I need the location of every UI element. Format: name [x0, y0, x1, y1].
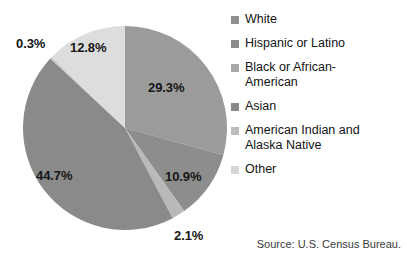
legend-item-label: Hispanic or Latino [245, 36, 345, 51]
legend-item[interactable]: White [231, 12, 407, 27]
pie-plot-area: 29.3%10.9%2.1%44.7%0.3%12.8% [0, 0, 236, 258]
legend-item-label: American Indian and Alaska Native [245, 123, 360, 153]
legend-item-label: White [245, 12, 277, 27]
slice-value-label: 44.7% [36, 168, 72, 183]
legend-swatch-icon [231, 127, 239, 135]
slice-value-label: 0.3% [16, 36, 45, 51]
legend-item[interactable]: Asian [231, 99, 407, 114]
legend-item-label: Black or African- American [245, 60, 336, 90]
legend-swatch-icon [231, 64, 239, 72]
slice-value-label: 12.8% [70, 40, 106, 55]
legend-swatch-icon [231, 103, 239, 111]
legend-item-label: Asian [245, 99, 276, 114]
legend-item[interactable]: Hispanic or Latino [231, 36, 407, 51]
legend-swatch-icon [231, 40, 239, 48]
slice-value-label: 2.1% [174, 228, 203, 243]
legend-item-label: Other [245, 162, 276, 177]
legend-swatch-icon [231, 16, 239, 24]
legend-swatch-icon [231, 166, 239, 174]
pie-chart-figure: 29.3%10.9%2.1%44.7%0.3%12.8% WhiteHispan… [0, 0, 407, 258]
slice-value-label: 29.3% [148, 80, 184, 95]
pie-slices [23, 26, 227, 230]
slice-value-label: 10.9% [165, 169, 201, 184]
legend-item[interactable]: Other [231, 162, 407, 177]
legend: WhiteHispanic or LatinoBlack or African-… [231, 12, 407, 186]
legend-item[interactable]: American Indian and Alaska Native [231, 123, 407, 153]
source-note: Source: U.S. Census Bureau. [257, 238, 401, 250]
legend-item[interactable]: Black or African- American [231, 60, 407, 90]
